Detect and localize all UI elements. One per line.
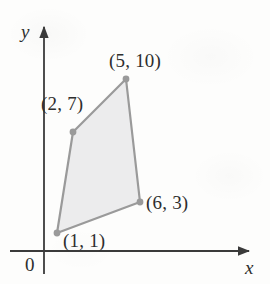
coordinate-plot	[0, 0, 270, 284]
x-axis-label: x	[245, 258, 253, 277]
origin-label: 0	[25, 255, 35, 274]
figure-container: y x 0 (2, 7) (5, 10) (6, 3) (1, 1)	[0, 0, 270, 284]
vertex-dot-6-3	[137, 199, 144, 206]
vertex-dot-2-7	[70, 129, 77, 136]
vertex-dot-5-10	[123, 76, 130, 83]
y-axis-label: y	[21, 22, 29, 41]
point-label-2-7: (2, 7)	[41, 94, 83, 113]
point-label-1-1: (1, 1)	[63, 231, 105, 250]
point-label-5-10: (5, 10)	[109, 51, 161, 70]
vertex-dot-1-1	[54, 230, 61, 237]
point-label-6-3: (6, 3)	[146, 193, 188, 212]
